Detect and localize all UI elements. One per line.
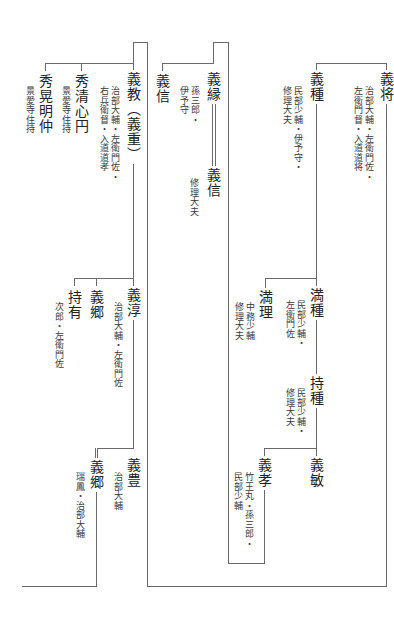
line-shusei-stub — [81, 63, 82, 71]
notes-shuko: 景愛寺住持 — [24, 86, 35, 134]
person-yoshitane: 義種 — [309, 70, 323, 104]
notes-yoshitoyo: 治部大輔 — [112, 472, 123, 510]
person-yoshitoyo: 義豊 — [126, 456, 140, 490]
person-yoshitaka: 義孝 — [257, 456, 271, 490]
line-mitsumasa-stub — [265, 278, 266, 288]
person-yoshisato-b: 義郷 — [89, 458, 103, 492]
person-yoshinori: 義教（義重） — [126, 70, 140, 164]
line-yoshisato-b — [96, 486, 97, 587]
notes-yoshinobu-b: 修理大夫 — [188, 178, 199, 216]
line-yoshiatsu-children — [74, 278, 134, 279]
line-adopt-yoshisato-2 — [97, 448, 98, 458]
person-yoshinobu-b: 義信 — [206, 166, 220, 200]
notes-mochitane: 民部少輔・ 修理大夫 — [284, 388, 306, 436]
person-yoshiyori: 義縁 — [206, 70, 220, 104]
person-shusei: 秀清心円 — [74, 72, 88, 136]
notes-shusei: 景愛寺住持 — [60, 86, 71, 134]
line-yoshimasa-trunk — [386, 63, 387, 586]
line-yoshinori-outer — [147, 42, 148, 587]
line-yoshinori-top — [133, 42, 148, 43]
genealogy-tree: 義将 治部大輔・左衛門佐・ 左衛門督・入道道将 義種 民部少輔・伊予守・ 修理大… — [0, 0, 394, 617]
line-adopt-yoshinobu-1 — [212, 100, 213, 168]
person-mitsumasa: 満理 — [258, 288, 272, 322]
person-shuko: 秀晃明仲 — [38, 72, 52, 136]
line-yoshiyori-stub — [213, 42, 214, 64]
person-yoshimasa: 義将 — [379, 70, 393, 104]
line-yoshinobu-a-stub — [162, 63, 163, 71]
line-adopt-yoshinobu-2 — [215, 100, 216, 168]
line-bottom-left — [22, 586, 97, 587]
line-mochitane-branch — [264, 448, 317, 449]
person-yoshitoshi: 義敏 — [309, 456, 323, 490]
notes-mitsutane: 民部少輔・ 左衛門佐 — [284, 300, 306, 348]
line-yoshiyori-branch — [162, 63, 214, 64]
person-mitsutane: 満種 — [309, 286, 323, 320]
notes-yoshitaka: 竹王丸・孫三郎・ 民部少輔 — [232, 472, 254, 548]
notes-yoshisato-b: 瑞鳳・治部大輔 — [74, 472, 85, 539]
notes-mochiari: 次郎・左衛門佐 — [53, 302, 64, 369]
line-yoshisato-a-stub — [96, 278, 97, 286]
line-yoshitoyo-branch — [97, 448, 134, 449]
line-yoshiyori-top — [213, 42, 229, 43]
line-mitsutane-branch — [265, 278, 316, 279]
line-shuko-stub — [45, 63, 46, 71]
person-mochiari: 持有 — [67, 288, 81, 322]
line-mochiari-stub — [74, 278, 75, 286]
notes-yoshinori: 治部大輔・左衛門佐・ 右兵衛督・入道道孝 — [98, 86, 120, 181]
line-adopt-yoshisato-1 — [95, 448, 96, 458]
line-yoshiyori-bracket — [228, 42, 229, 564]
person-yoshiatsu: 義淳 — [126, 286, 140, 320]
person-yoshisato-a: 義郷 — [89, 288, 103, 322]
notes-yoshitane: 民部少輔・伊予守・ 修理大夫 — [281, 86, 303, 172]
notes-yoshiatsu: 治部大輔・左衛門佐 — [112, 302, 123, 388]
notes-mitsumasa: 中務少輔 修理大夫 — [233, 302, 255, 340]
notes-yoshiyori: 孫三郎・ 伊予守 — [178, 86, 200, 124]
person-mochitane: 持種 — [309, 374, 323, 408]
notes-yoshimasa: 治部大輔・左衛門佐・ 左衛門督・入道道将 — [352, 86, 374, 181]
line-bottom-right — [147, 586, 387, 587]
line-yoshitaka-bottom — [228, 563, 265, 564]
line-yoshimasa-top — [316, 63, 387, 64]
person-yoshinobu-a: 義信 — [155, 72, 169, 106]
line-yoshinori-children — [45, 63, 134, 64]
